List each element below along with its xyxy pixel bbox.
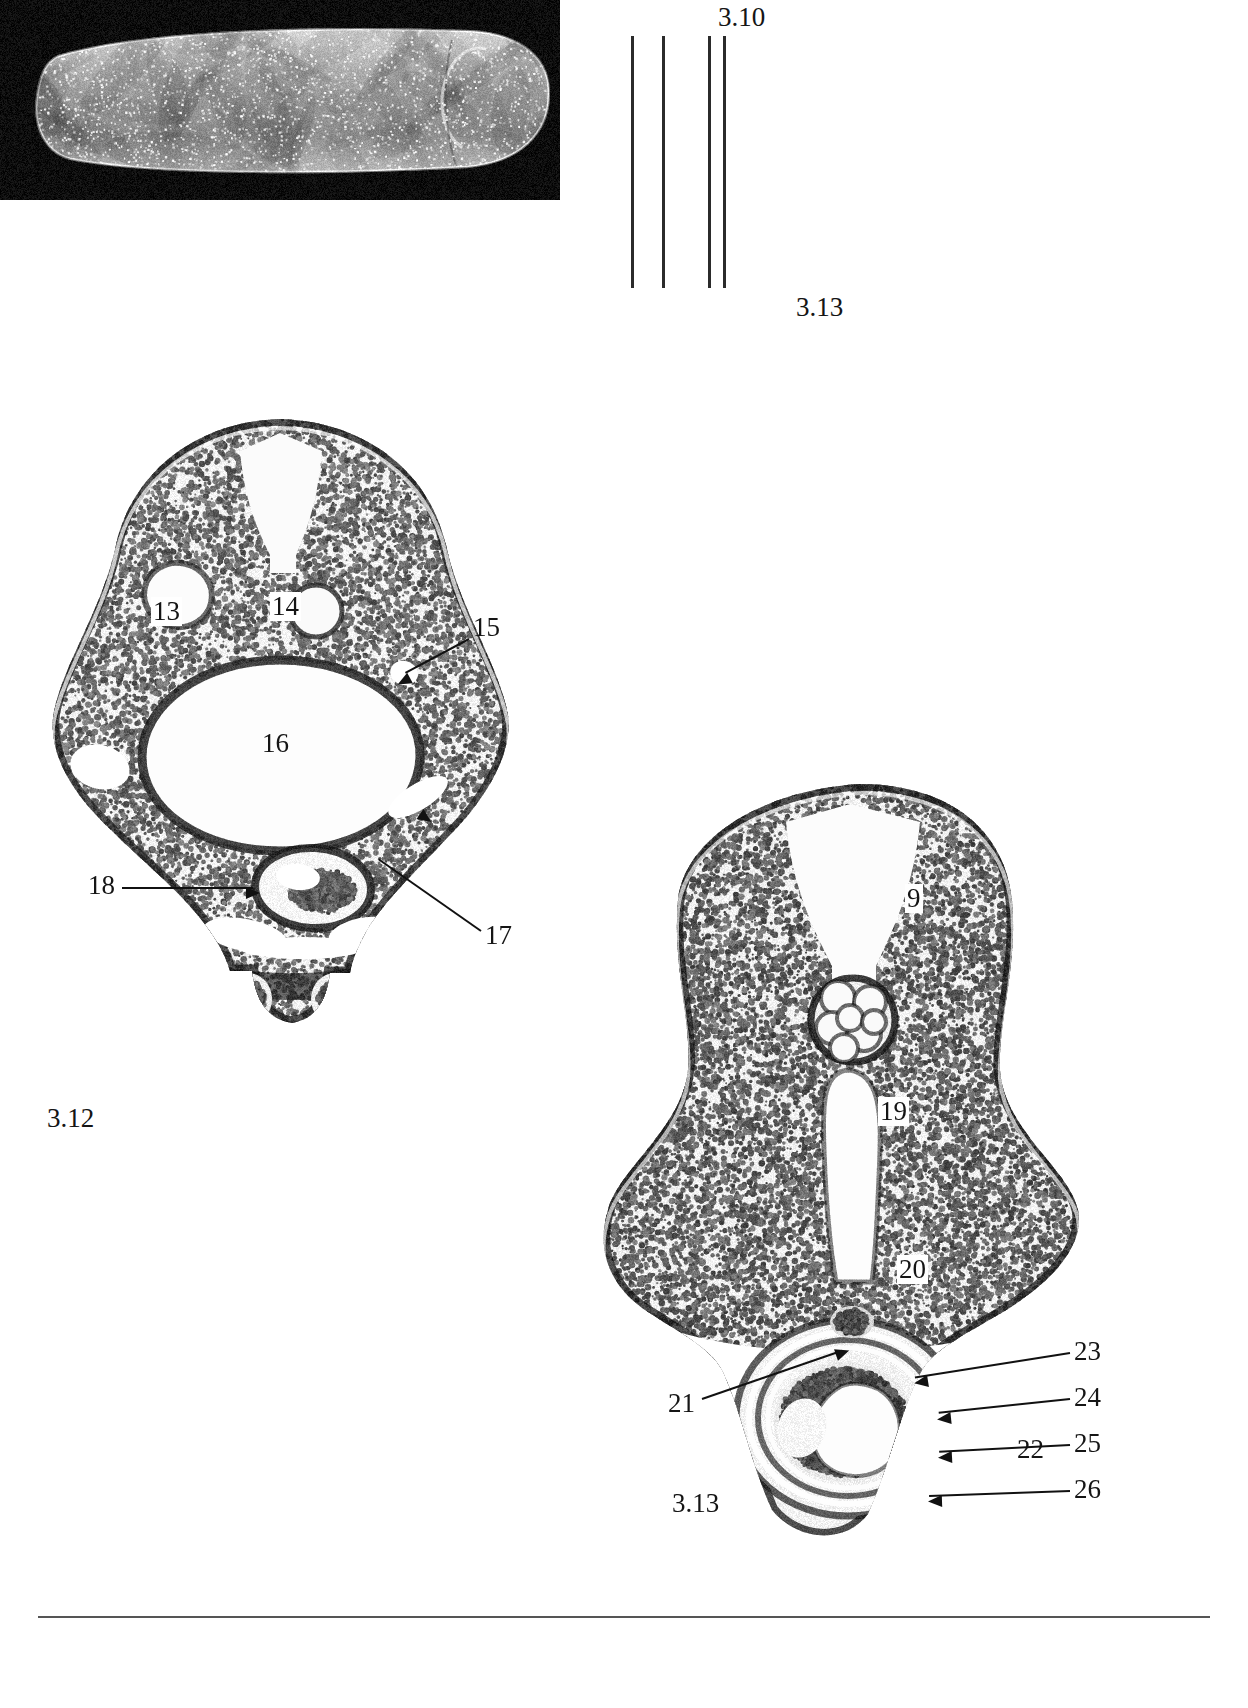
label-17: 17 [485,922,512,949]
label-13: 13 [151,597,182,626]
label-25: 25 [1074,1430,1101,1457]
label-26: 26 [1074,1476,1101,1503]
label-24: 24 [1074,1384,1101,1411]
label-15: 15 [473,614,500,641]
label-22: 22 [1017,1436,1044,1463]
label-20: 20 [897,1255,928,1284]
section-line-2 [662,36,665,288]
section-line-1 [631,36,634,288]
label-21: 21 [668,1390,695,1417]
sem-image-canvas [0,0,560,200]
label-23: 23 [1074,1338,1101,1365]
label-16: 16 [262,730,289,757]
label-18-arrowhead [246,887,260,899]
label-19: 19 [878,1097,909,1126]
label-23-arrowhead [913,1375,929,1389]
caption-3-12: 3.12 [47,1105,94,1132]
sem-panel-area: 3.10 3.13 [0,0,560,200]
page-bottom-rule [38,1616,1210,1618]
sem-label-3-10: 3.10 [718,4,765,31]
label-18-leader [122,887,253,889]
section-line-3 [708,36,711,288]
sem-label-3-13: 3.13 [796,294,843,321]
label-18: 18 [88,872,115,899]
label-26-arrowhead [928,1495,942,1507]
section-line-4 [723,36,726,288]
caption-3-13: 3.13 [672,1490,719,1517]
label-24-arrowhead [936,1412,951,1425]
sem-micrograph [0,0,560,200]
label-9: 9 [905,884,923,913]
label-25-arrowhead [938,1451,953,1464]
label-14: 14 [270,592,301,621]
